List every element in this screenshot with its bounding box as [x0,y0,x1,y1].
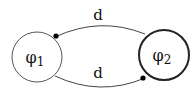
node-subscript: 1 [37,55,45,69]
arrowhead-dot-icon [53,33,58,38]
node-phi1: φ1 [12,32,62,82]
state-diagram: d d φ1 φ2 [0,0,195,90]
node-phi2: φ2 [139,30,189,80]
edge-top: d [53,6,145,39]
node-label: φ [153,46,164,65]
edge-bottom: d [55,64,146,87]
edge-label-top: d [93,6,103,24]
node-subscript: 2 [164,53,172,67]
arrowhead-dot-icon [140,75,145,80]
node-label: φ [26,48,37,67]
edge-label-bottom: d [93,64,103,82]
